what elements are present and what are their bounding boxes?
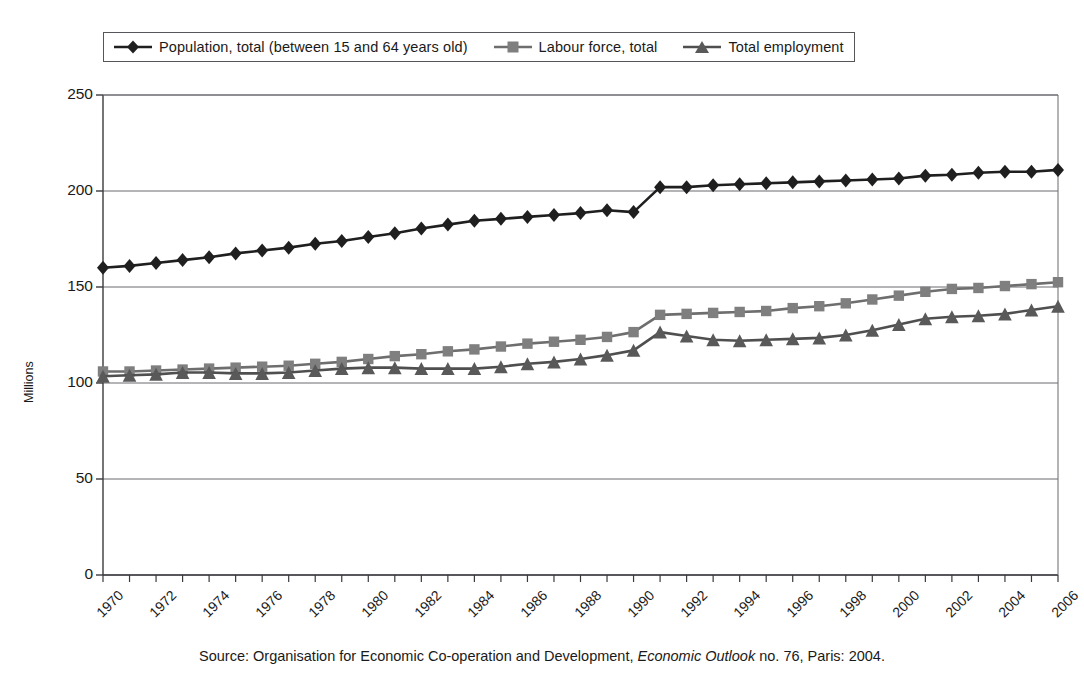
series-1 bbox=[97, 163, 1064, 275]
square-marker bbox=[602, 332, 612, 342]
diamond-marker bbox=[840, 173, 852, 187]
square-marker bbox=[496, 341, 506, 351]
diamond-marker bbox=[203, 250, 215, 264]
square-marker bbox=[1000, 281, 1010, 291]
diamond-marker bbox=[1052, 163, 1064, 177]
square-marker bbox=[894, 290, 904, 300]
x-axis-ticks bbox=[103, 575, 1058, 582]
square-marker bbox=[1053, 277, 1063, 287]
square-marker bbox=[549, 337, 559, 347]
square-marker bbox=[788, 303, 798, 313]
square-marker bbox=[681, 309, 691, 319]
diamond-marker bbox=[681, 180, 693, 194]
diamond-marker bbox=[177, 253, 189, 267]
square-marker bbox=[867, 294, 877, 304]
diamond-marker bbox=[548, 208, 560, 222]
diamond-marker bbox=[760, 176, 772, 190]
square-marker bbox=[947, 284, 957, 294]
plot-area bbox=[0, 0, 1084, 690]
y-axis-ticks bbox=[96, 95, 103, 575]
square-marker bbox=[973, 283, 983, 293]
square-marker bbox=[734, 307, 744, 317]
source-prefix: Source: Organisation for Economic Co-ope… bbox=[199, 648, 633, 664]
square-marker bbox=[841, 298, 851, 308]
diamond-marker bbox=[468, 214, 480, 228]
diamond-marker bbox=[999, 165, 1011, 179]
diamond-marker bbox=[893, 172, 905, 186]
diamond-marker bbox=[283, 241, 295, 255]
diamond-marker bbox=[389, 226, 401, 240]
diamond-marker bbox=[442, 218, 454, 232]
source-suffix: no. 76, Paris: 2004. bbox=[759, 648, 885, 664]
diamond-marker bbox=[1025, 165, 1037, 179]
square-marker bbox=[575, 335, 585, 345]
diamond-marker bbox=[734, 177, 746, 191]
diamond-marker bbox=[813, 174, 825, 188]
square-marker bbox=[522, 338, 532, 348]
square-marker bbox=[761, 306, 771, 316]
diamond-marker bbox=[575, 206, 587, 220]
source-title-italic: Economic Outlook bbox=[638, 648, 756, 664]
diamond-marker bbox=[415, 221, 427, 235]
chart-figure: Population, total (between 15 and 64 yea… bbox=[0, 0, 1084, 690]
square-marker bbox=[708, 308, 718, 318]
diamond-marker bbox=[919, 169, 931, 183]
square-marker bbox=[416, 349, 426, 359]
source-note: Source: Organisation for Economic Co-ope… bbox=[0, 648, 1084, 664]
y-axis-tick-label: 50 bbox=[33, 469, 93, 487]
diamond-marker bbox=[309, 237, 321, 251]
diamond-marker bbox=[97, 261, 109, 275]
square-marker bbox=[814, 301, 824, 311]
y-axis-tick-label: 0 bbox=[33, 565, 93, 583]
diamond-marker bbox=[866, 172, 878, 186]
diamond-marker bbox=[707, 178, 719, 192]
square-marker bbox=[628, 327, 638, 337]
diamond-marker bbox=[362, 230, 374, 244]
diamond-marker bbox=[521, 210, 533, 224]
y-axis-tick-label: 200 bbox=[33, 181, 93, 199]
data-series-layer bbox=[96, 163, 1065, 383]
y-axis-tick-label: 100 bbox=[33, 373, 93, 391]
square-marker bbox=[443, 346, 453, 356]
diamond-marker bbox=[256, 244, 268, 258]
diamond-marker bbox=[124, 259, 136, 273]
diamond-marker bbox=[946, 168, 958, 182]
square-marker bbox=[655, 310, 665, 320]
diamond-marker bbox=[972, 166, 984, 180]
square-marker bbox=[390, 351, 400, 361]
diamond-marker bbox=[601, 203, 613, 217]
y-axis-tick-label: 250 bbox=[33, 85, 93, 103]
y-axis-tick-label: 150 bbox=[33, 277, 93, 295]
square-marker bbox=[469, 344, 479, 354]
diamond-marker bbox=[787, 175, 799, 189]
square-marker bbox=[1026, 279, 1036, 289]
diamond-marker bbox=[336, 234, 348, 248]
diamond-marker bbox=[230, 246, 242, 260]
diamond-marker bbox=[495, 212, 507, 226]
square-marker bbox=[920, 287, 930, 297]
diamond-marker bbox=[150, 256, 162, 270]
